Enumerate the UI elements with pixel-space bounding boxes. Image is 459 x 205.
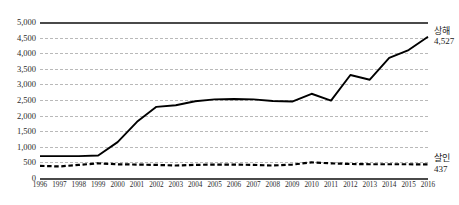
- x-axis-tick-label: 2016: [421, 181, 435, 189]
- x-axis-tick-label: 2003: [169, 181, 183, 189]
- x-axis-tick-label: 2011: [324, 181, 338, 189]
- y-axis-tick-label: 4,000: [17, 48, 36, 58]
- x-axis-tick-label: 2010: [304, 181, 318, 189]
- series-end-label-murder: 살인 437: [434, 153, 450, 174]
- line-chart: 05001,0001,5002,0002,5003,0003,5004,0004…: [0, 0, 459, 205]
- x-axis-tick-label: 2004: [188, 181, 202, 189]
- y-axis-tick-label: 5,000: [17, 17, 36, 27]
- y-axis-tick-label: 500: [23, 157, 36, 167]
- x-axis-tick-label: 2015: [401, 181, 415, 189]
- y-axis-tick-label: 3,000: [17, 79, 36, 89]
- y-axis-tick-label: 2,000: [17, 111, 36, 121]
- x-axis-labels: 1996199719981999200020012002200320042005…: [40, 181, 428, 203]
- series-name-assault: 상해: [434, 26, 454, 36]
- x-axis-tick-label: 2012: [343, 181, 357, 189]
- x-axis-tick-label: 2005: [207, 181, 221, 189]
- x-axis-tick-label: 2009: [285, 181, 299, 189]
- x-axis-tick-label: 1996: [33, 181, 47, 189]
- x-axis-tick-label: 2013: [363, 181, 377, 189]
- x-axis-tick-label: 2014: [382, 181, 396, 189]
- x-axis-tick-label: 2001: [130, 181, 144, 189]
- series-name-murder: 살인: [434, 153, 450, 163]
- x-axis-tick-label: 2007: [246, 181, 260, 189]
- x-axis-tick-label: 1997: [52, 181, 66, 189]
- x-axis-tick-label: 2008: [266, 181, 280, 189]
- x-axis-tick-label: 2002: [149, 181, 163, 189]
- series-line-assault: [40, 37, 428, 156]
- y-axis-tick-label: 1,000: [17, 142, 36, 152]
- x-axis-tick-label: 1999: [91, 181, 105, 189]
- series-lines: [40, 22, 428, 178]
- x-axis-tick-label: 1998: [72, 181, 86, 189]
- series-end-value-murder: 437: [434, 164, 450, 174]
- series-end-label-assault: 상해 4,527: [434, 26, 454, 47]
- series-line-murder: [40, 162, 428, 166]
- x-axis-tick-label: 2006: [227, 181, 241, 189]
- y-axis-tick-label: 1,500: [17, 126, 36, 136]
- axis-line-bottom: [40, 178, 428, 180]
- y-axis-tick-label: 2,500: [17, 95, 36, 105]
- x-axis-tick-label: 2000: [110, 181, 124, 189]
- y-axis-labels: 05001,0001,5002,0002,5003,0003,5004,0004…: [0, 0, 40, 205]
- plot-area: [40, 22, 428, 178]
- series-end-value-assault: 4,527: [434, 36, 454, 46]
- y-axis-tick-label: 4,500: [17, 33, 36, 43]
- y-axis-tick-label: 3,500: [17, 64, 36, 74]
